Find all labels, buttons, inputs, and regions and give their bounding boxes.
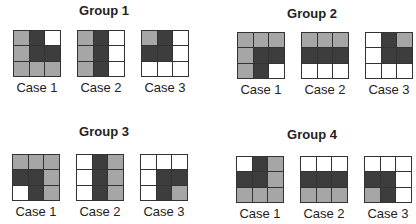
grid-cell-white	[366, 48, 381, 62]
grid-cell-gray	[78, 46, 93, 60]
grid-cell-gray	[269, 33, 284, 47]
grid-cell-dark	[94, 46, 109, 60]
grid-cell-gray	[44, 186, 59, 200]
grid-cell-white	[141, 155, 156, 169]
grid-cell-dark	[157, 186, 172, 200]
grid-cell-gray	[108, 170, 123, 184]
grid-cell-gray	[14, 31, 29, 45]
grid-cell-dark	[318, 48, 333, 62]
case-2: Case 2	[301, 32, 350, 79]
grid-cell-dark	[172, 170, 187, 184]
case-label: Case 2	[291, 82, 359, 97]
grid-cell-gray	[268, 188, 283, 202]
grid-cell-gray	[45, 62, 60, 76]
grid-3x3	[13, 30, 61, 77]
grid-cell-white	[77, 186, 92, 200]
group-title: Group 4	[208, 127, 416, 142]
grid-cell-white	[366, 64, 381, 78]
grid-cell-gray	[318, 33, 333, 47]
case-label: Case 2	[290, 206, 358, 221]
grid-cell-dark	[381, 172, 396, 186]
grid-cell-white	[301, 157, 316, 171]
grid-3x3	[140, 154, 188, 201]
case-label: Case 1	[2, 204, 70, 219]
grid-cell-gray	[78, 31, 93, 45]
grid-cell-white	[269, 64, 284, 78]
grid-cell-white	[396, 172, 411, 186]
grid-cell-gray	[30, 62, 45, 76]
grid-cell-dark	[254, 48, 269, 62]
case-1: Case 1	[237, 32, 286, 79]
grid-cell-white	[142, 62, 157, 76]
grid-cell-gray	[237, 188, 252, 202]
group-title: Group 3	[0, 124, 208, 139]
grid-cell-dark	[269, 48, 284, 62]
grid-cell-dark	[158, 31, 173, 45]
grid-cell-gray	[14, 62, 29, 76]
grid-cell-white	[318, 64, 333, 78]
grid-cell-white	[77, 155, 92, 169]
grid-cell-white	[365, 157, 380, 171]
grid-cell-gray	[268, 172, 283, 186]
case-3: Case 3	[141, 30, 190, 77]
grid-cell-dark	[13, 170, 28, 184]
grid-cell-dark	[237, 172, 252, 186]
grid-cell-white	[396, 188, 411, 202]
grid-cell-white	[382, 64, 397, 78]
case-1: Case 1	[236, 156, 285, 203]
grid-cell-dark	[93, 186, 108, 200]
grid-cell-dark	[253, 172, 268, 186]
case-3: Case 3	[365, 32, 414, 79]
grid-cell-gray	[78, 62, 93, 76]
grid-cell-white	[173, 46, 188, 60]
grid-cell-white	[302, 64, 317, 78]
group-3: Group 3 Case 1 Case 2 Case 3	[0, 112, 208, 224]
grid-cell-white	[397, 64, 412, 78]
grid-cell-gray	[172, 186, 187, 200]
grid-cell-gray	[253, 188, 268, 202]
grid-cell-white	[396, 157, 411, 171]
case-label: Case 3	[355, 82, 416, 97]
grid-cell-dark	[30, 46, 45, 60]
case-2: Case 2	[300, 156, 349, 203]
grid-cell-dark	[29, 170, 44, 184]
grid-cell-white	[237, 157, 252, 171]
case-3: Case 3	[364, 156, 413, 203]
grid-cell-white	[332, 157, 347, 171]
grid-cell-white	[317, 157, 332, 171]
grid-cell-dark	[382, 33, 397, 47]
grid-3x3	[76, 154, 124, 201]
case-label: Case 3	[130, 204, 198, 219]
grid-cell-gray	[142, 31, 157, 45]
grid-cell-dark	[45, 46, 60, 60]
grid-cell-white	[381, 157, 396, 171]
grid-cell-dark	[302, 48, 317, 62]
grid-cell-dark	[381, 188, 396, 202]
grid-cell-white	[13, 186, 28, 200]
case-label: Case 3	[131, 80, 199, 95]
grid-cell-dark	[365, 172, 380, 186]
grid-3x3	[77, 30, 125, 77]
grid-3x3	[364, 156, 412, 203]
grid-cell-white	[173, 62, 188, 76]
grid-cell-white	[77, 170, 92, 184]
grid-cell-gray	[254, 33, 269, 47]
grid-cell-gray	[238, 48, 253, 62]
grid-cell-dark	[158, 46, 173, 60]
grid-cell-gray	[238, 64, 253, 78]
grid-cell-gray	[332, 188, 347, 202]
grid-cell-dark	[29, 186, 44, 200]
case-label: Case 1	[227, 82, 295, 97]
case-3: Case 3	[140, 154, 189, 201]
grid-cell-dark	[317, 172, 332, 186]
grid-3x3	[236, 156, 284, 203]
grid-cell-gray	[268, 157, 283, 171]
case-2: Case 2	[77, 30, 126, 77]
grid-cell-gray	[108, 186, 123, 200]
grid-cell-dark	[93, 155, 108, 169]
grid-cell-white	[109, 31, 124, 45]
group-4: Group 4 Case 1 Case 2 Case 3	[208, 112, 416, 224]
grid-cell-dark	[30, 31, 45, 45]
grid-cell-white	[172, 155, 187, 169]
grid-cell-gray	[301, 188, 316, 202]
